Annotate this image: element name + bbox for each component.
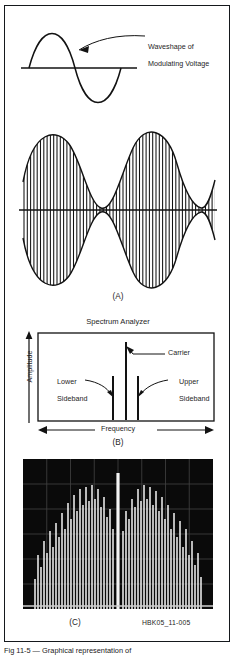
- panel-letter-a: (A): [5, 292, 231, 301]
- panel-letter-c: (C): [45, 618, 105, 627]
- upper-sideband-line-1: Upper: [179, 377, 199, 386]
- modulating-voltage-annotation: Waveshape of Modulating Voltage: [140, 34, 209, 77]
- lower-sideband-line-1: Lower: [57, 377, 77, 386]
- upper-sideband-label: Upper Sideband: [171, 369, 209, 412]
- amplitude-axis-label: Amplitude: [25, 337, 34, 397]
- lower-sideband-line-2: Sideband: [57, 394, 87, 403]
- annotation-line-1: Waveshape of: [148, 42, 194, 51]
- annotation-leader-arrow: [57, 32, 147, 62]
- spectrum-analyzer-title: Spectrum Analyzer: [5, 318, 231, 327]
- scope-trace: [23, 459, 213, 609]
- figure-id-code: HBK05_11-005: [142, 619, 190, 626]
- lower-sideband-label: Lower Sideband: [49, 369, 87, 412]
- spectrum-analyzer-photograph: [23, 459, 213, 609]
- rf-carrier-lines: [24, 122, 215, 302]
- frequency-axis-label: Frequency: [5, 425, 231, 434]
- panel-letter-b: (B): [5, 438, 231, 447]
- figure-frame: Waveshape of Modulating Voltage: [4, 5, 230, 642]
- annotation-line-2: Modulating Voltage: [148, 59, 209, 68]
- carrier-label: Carrier: [168, 349, 190, 358]
- am-envelope-waveform: [17, 134, 221, 286]
- upper-sideband-line-2: Sideband: [179, 394, 209, 403]
- figure-caption: Fig 11-5 — Graphical representation of: [4, 646, 230, 657]
